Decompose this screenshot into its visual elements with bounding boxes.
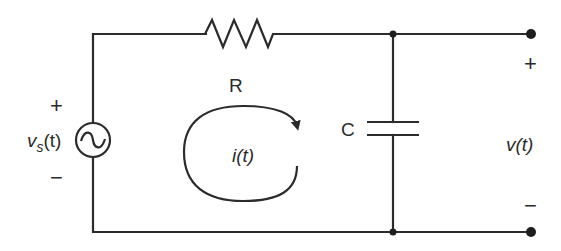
wire-left-top bbox=[93, 34, 206, 123]
ac-source-icon bbox=[76, 123, 110, 157]
resistor-label: R bbox=[229, 75, 243, 96]
output-terminal-positive bbox=[526, 29, 536, 39]
rc-circuit-diagram: R + − vs(t) C i(t) + v(t) − bbox=[0, 0, 561, 251]
output-voltage-label: v(t) bbox=[506, 134, 533, 155]
source-label: vs(t) bbox=[27, 130, 61, 155]
resistor-icon bbox=[205, 20, 280, 47]
capacitor-label: C bbox=[341, 119, 355, 140]
source-plus-sign: + bbox=[50, 93, 63, 118]
wire-left-bottom bbox=[93, 157, 531, 232]
output-plus-sign: + bbox=[524, 51, 537, 76]
output-terminal-negative bbox=[526, 227, 536, 237]
junction-bottom bbox=[390, 229, 397, 236]
source-minus-sign: − bbox=[50, 165, 63, 190]
junction-top bbox=[390, 31, 397, 38]
current-label: i(t) bbox=[232, 145, 254, 166]
wires bbox=[93, 34, 531, 232]
output-minus-sign: − bbox=[524, 193, 537, 218]
capacitor-icon bbox=[367, 122, 419, 135]
source-label-subscript: s bbox=[37, 139, 44, 155]
source-label-argument: (t) bbox=[44, 130, 62, 151]
